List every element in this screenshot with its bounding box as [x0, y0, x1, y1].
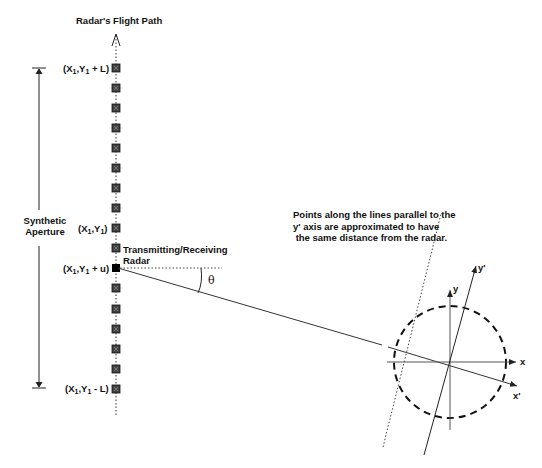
x-axis-label: x — [520, 356, 525, 367]
flight-path-title: Radar's Flight Path — [76, 15, 162, 26]
position-label-radar: (X1,Y1 + u) — [63, 263, 109, 277]
radar-label: Transmitting/Receiving Radar — [123, 244, 228, 266]
aperture-label-line2: Aperture — [22, 226, 68, 237]
y-prime-axis-label: y' — [478, 262, 486, 273]
aperture-label: Synthetic Aperture — [22, 215, 68, 237]
position-label-top: (X1,Y1 + L) — [63, 63, 109, 77]
x-prime-axis-label: x' — [513, 390, 521, 401]
radar-label-line1: Transmitting/Receiving — [123, 244, 228, 255]
angle-theta-label: θ — [208, 274, 215, 287]
radar-label-line2: Radar — [123, 255, 228, 266]
angle-arc — [198, 268, 202, 293]
y-axis-label: y — [453, 283, 458, 294]
equidistance-line — [383, 214, 441, 447]
approximation-note: Points along the lines parallel to the y… — [293, 209, 456, 244]
position-label-bottom: (X1,Y1 - L) — [65, 383, 109, 397]
aperture-label-line1: Synthetic — [22, 215, 68, 226]
sar-geometry-diagram: Radar's Flight Path Synthetic Aperture (… — [0, 0, 542, 468]
position-label-center: (X1,Y1) — [78, 223, 107, 237]
